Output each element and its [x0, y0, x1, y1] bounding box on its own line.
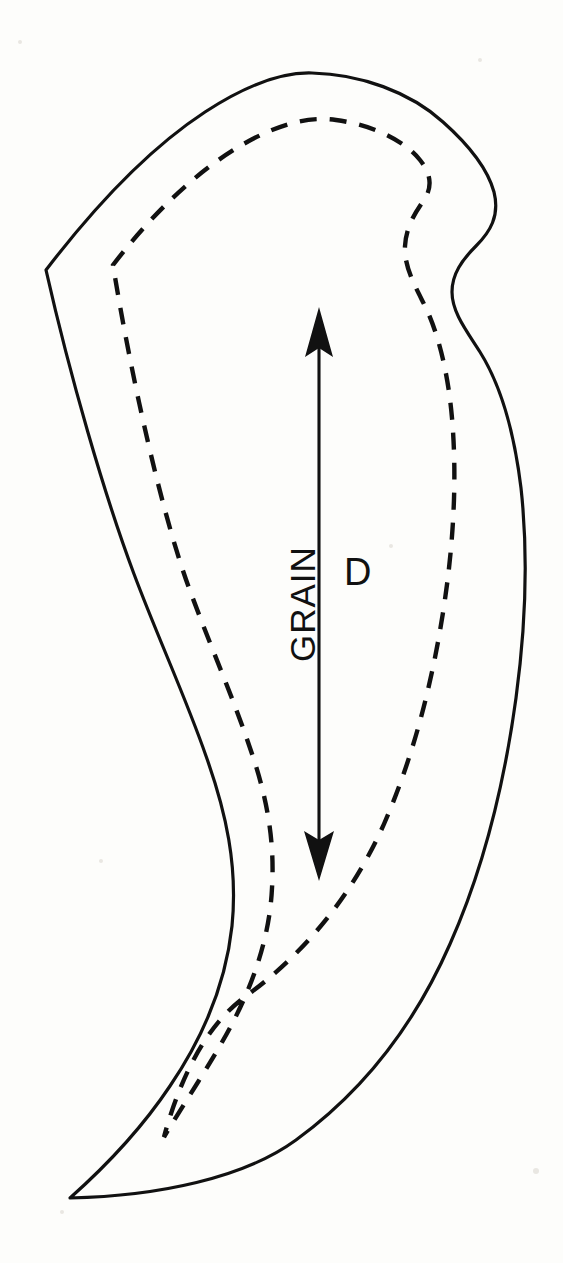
grain-label: GRAIN	[283, 546, 323, 662]
dimension-d-label: D	[344, 551, 371, 594]
pattern-sheet: GRAIN D	[0, 0, 563, 1263]
pattern-drawing	[0, 0, 563, 1263]
